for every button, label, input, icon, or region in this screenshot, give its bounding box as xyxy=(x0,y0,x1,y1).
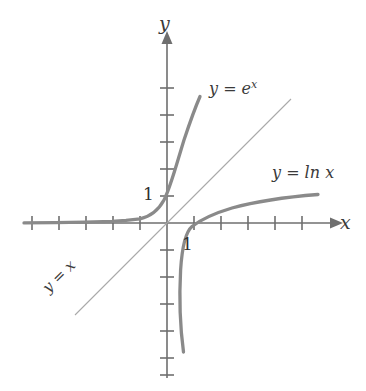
y-axis-label: y xyxy=(159,12,170,34)
y-axis-tick-label-one: 1 xyxy=(143,184,154,204)
math-graph-figure: y x y = ex y = ln x y = x 1 1 xyxy=(0,0,366,391)
identity-line xyxy=(75,99,291,315)
logarithm-curve-label: y = ln x xyxy=(272,163,334,182)
logarithm-curve-label-text: y = ln x xyxy=(272,163,334,182)
logarithm-curve xyxy=(180,195,318,353)
exponential-curve-label-exponent: x xyxy=(251,78,257,91)
x-axis-tick-label-one: 1 xyxy=(182,234,193,254)
graph-canvas xyxy=(0,0,366,391)
x-axis-label: x xyxy=(340,211,351,233)
exponential-curve-label-base: y = e xyxy=(209,79,251,98)
exponential-curve-label: y = ex xyxy=(209,79,257,98)
